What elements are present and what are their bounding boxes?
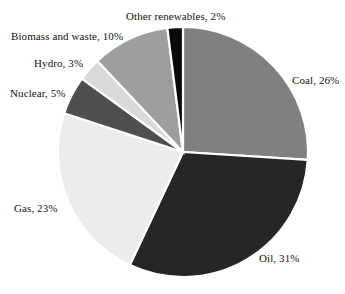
- pie-slice-coal: [183, 27, 308, 160]
- pie-chart-figure: Coal, 26% Oil, 31% Gas, 23% Nuclear, 5% …: [0, 0, 345, 294]
- pie-label-biomass-and-waste: Biomass and waste, 10%: [11, 30, 123, 43]
- pie-label-other-renewables: Other renewables, 2%: [126, 10, 225, 23]
- pie-label-nuclear: Nuclear, 5%: [10, 87, 66, 100]
- pie-label-oil: Oil, 31%: [259, 252, 300, 265]
- pie-label-coal: Coal, 26%: [292, 74, 339, 87]
- pie-label-hydro: Hydro, 3%: [34, 57, 83, 70]
- pie-label-gas: Gas, 23%: [14, 202, 58, 215]
- pie-chart-canvas: [0, 0, 345, 294]
- pie-slice-group: [58, 27, 308, 277]
